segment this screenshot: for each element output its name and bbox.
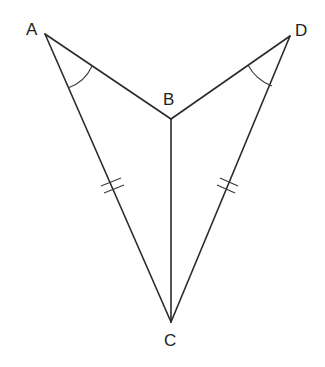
angle-arc-d [248, 65, 272, 86]
vertex-label-d: D [295, 21, 307, 40]
angle-arc-a [68, 66, 92, 88]
vertex-label-b: B [163, 90, 174, 109]
vertex-label-c: C [164, 331, 176, 350]
tick-marks-ac [101, 178, 124, 193]
segment-dc [171, 36, 290, 322]
vertex-label-a: A [26, 20, 38, 39]
geometry-diagram: A B C D [0, 0, 325, 367]
